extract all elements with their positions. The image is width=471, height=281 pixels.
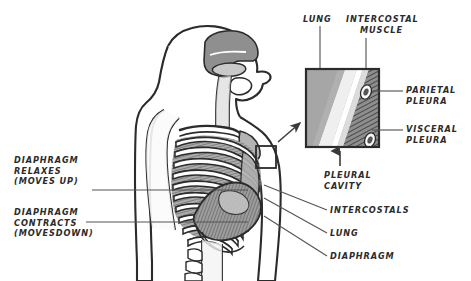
- label-intercostal-muscle: INTERCOSTALMUSCLE: [346, 14, 419, 35]
- label-diaphragm-body: DIAPHRAGM: [330, 251, 395, 262]
- label-line-2: PLEURA: [406, 135, 448, 145]
- respiration-diagram: DIAPHRAGMRELAXES(MOVES UP) DIAPHRAGMCONT…: [0, 0, 471, 281]
- label-diaphragm-contracts: DIAPHRAGMCONTRACTS(MOVESDOWN): [14, 207, 94, 239]
- label-line-1: VISCERAL: [406, 124, 458, 134]
- artwork-layer: [0, 0, 471, 281]
- label-diaphragm-relaxes: DIAPHRAGMRELAXES(MOVES UP): [14, 155, 79, 187]
- label-line-1: LUNG: [303, 14, 332, 24]
- label-line-2: CONTRACTS: [14, 218, 77, 228]
- label-line-1: INTERCOSTALS: [330, 205, 409, 215]
- label-visceral-pleura: VISCERALPLEURA: [406, 124, 458, 145]
- label-parietal-pleura: PARIETALPLEURA: [406, 85, 456, 106]
- magnify-arrow: [278, 123, 300, 142]
- label-line-1: DIAPHRAGM: [14, 207, 79, 217]
- label-line-1: DIAPHRAGM: [14, 155, 79, 165]
- label-lung-body: LUNG: [330, 228, 359, 239]
- label-lung-inset: LUNG: [303, 14, 332, 25]
- human-torso-sagittal: [135, 26, 281, 281]
- label-line-2: MUSCLE: [360, 25, 403, 36]
- pleura-magnified-inset: [306, 69, 379, 149]
- label-intercostals: INTERCOSTALS: [330, 205, 409, 216]
- label-line-3: (MOVESDOWN): [14, 228, 94, 238]
- label-line-2: RELAXES: [14, 166, 62, 176]
- label-line-2: PLEURA: [406, 96, 448, 106]
- label-line-2: CAVITY: [324, 181, 362, 191]
- label-line-1: LUNG: [330, 228, 359, 238]
- label-line-1: PARIETAL: [406, 85, 456, 95]
- label-line-1: PLEURAL: [324, 170, 372, 180]
- label-pleural-cavity: PLEURALCAVITY: [324, 170, 372, 191]
- label-line-3: (MOVES UP): [14, 176, 79, 186]
- label-line-1: INTERCOSTAL: [346, 14, 419, 24]
- label-line-1: DIAPHRAGM: [330, 251, 395, 261]
